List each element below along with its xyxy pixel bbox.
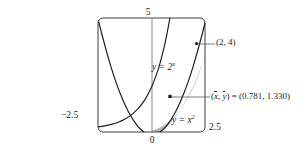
curve-label-exponential-eq: = 2: [156, 62, 172, 72]
point-marker-intersection: [195, 42, 198, 45]
annotation-intersection-point: (2, 4): [216, 38, 236, 47]
curve-label-exponential-exponent: x: [172, 60, 175, 67]
centroid-ybar-symbol: y: [223, 92, 227, 101]
point-marker-centroid: [168, 95, 171, 98]
axis-label-origin: 0: [150, 136, 155, 146]
annotation-centroid: (x, y) = (0.781, 1.330): [211, 92, 290, 101]
axis-label-x-max: 2.5: [209, 123, 221, 133]
axis-label-top-max: 5: [146, 8, 151, 18]
figure-container: 5 −2.5 2.5 0 (2, 4) (x, y) = (0.781, 1.3…: [0, 0, 304, 160]
centroid-xbar-symbol: x: [214, 92, 218, 101]
curve-label-parabola-eq: = x: [176, 115, 191, 125]
centroid-value: = (0.781, 1.330): [230, 91, 291, 101]
curve-label-exponential: y = 2x: [152, 61, 175, 73]
axis-label-x-min: −2.5: [61, 111, 78, 121]
curve-label-parabola-exponent: 2: [192, 113, 195, 120]
curve-label-parabola: y = x2: [172, 114, 195, 126]
